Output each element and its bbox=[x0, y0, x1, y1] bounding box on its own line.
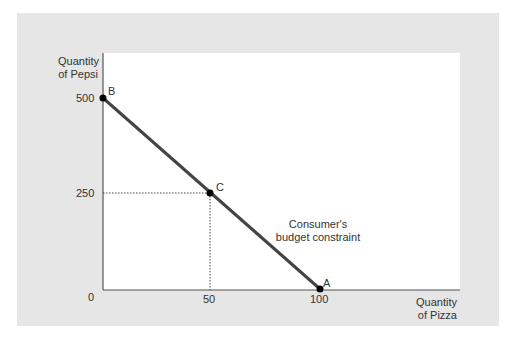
x-axis-label: Quantity of Pizza bbox=[410, 296, 457, 322]
x-tick-0: 0 bbox=[88, 291, 94, 304]
budget-constraint-annotation: Consumer's budget constraint bbox=[268, 218, 368, 244]
y-axis-label-line2: of Pepsi bbox=[58, 68, 98, 81]
annotation-line2: budget constraint bbox=[268, 231, 368, 244]
point-a-label: A bbox=[323, 277, 330, 290]
x-tick-100: 100 bbox=[310, 293, 328, 306]
y-tick-250: 250 bbox=[76, 187, 94, 200]
point-c-label: C bbox=[216, 181, 224, 194]
y-tick-500: 500 bbox=[76, 92, 94, 105]
x-axis-label-line1: Quantity bbox=[410, 296, 457, 309]
point-c-marker bbox=[207, 190, 214, 197]
y-axis-label: Quantity of Pepsi bbox=[58, 55, 98, 81]
point-b-label: B bbox=[108, 85, 115, 98]
y-axis-label-line1: Quantity bbox=[58, 55, 98, 68]
chart-svg bbox=[0, 0, 511, 340]
point-b-marker bbox=[100, 95, 107, 102]
annotation-line1: Consumer's bbox=[268, 218, 368, 231]
x-axis-label-line2: of Pizza bbox=[410, 309, 457, 322]
x-tick-50: 50 bbox=[203, 293, 215, 306]
